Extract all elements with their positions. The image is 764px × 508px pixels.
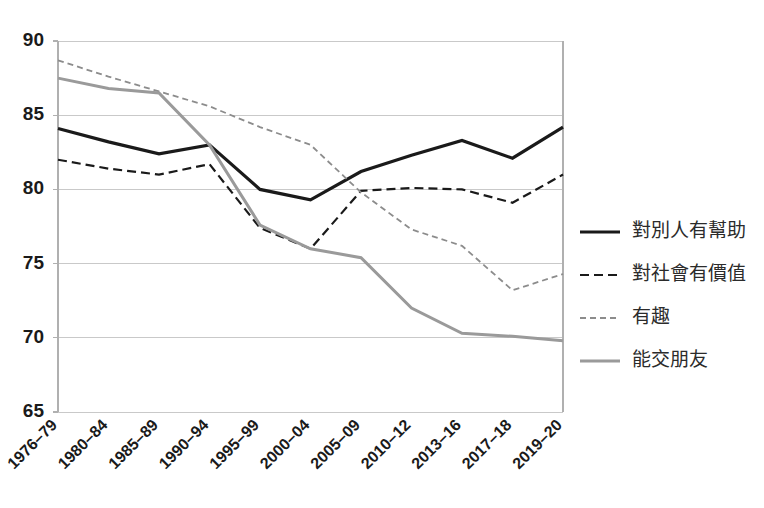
x-tick-label-2000-04: 2000–04 xyxy=(257,416,313,472)
x-tick-label-2017-18: 2017–18 xyxy=(459,416,515,472)
data-series xyxy=(58,60,563,340)
y-axis-tick-labels: 657075808590 xyxy=(23,29,45,421)
series-line-2 xyxy=(58,60,563,290)
x-tick-label-1985-89: 1985–89 xyxy=(105,416,161,472)
legend-label-3: 能交朋友 xyxy=(632,349,708,370)
legend-label-0: 對別人有幫助 xyxy=(632,220,746,241)
x-tick-label-1990-94: 1990–94 xyxy=(156,416,212,472)
line-chart: 657075808590 1976–791980–841985–891990–9… xyxy=(0,0,764,508)
x-tick-label-2013-16: 2013–16 xyxy=(408,416,464,472)
y-tick-label-80: 80 xyxy=(23,177,44,198)
x-tick-label-2019-20: 2019–20 xyxy=(509,416,565,472)
x-tick-label-2010-12: 2010–12 xyxy=(358,416,414,472)
axis-lines xyxy=(53,41,563,412)
chart-canvas: 657075808590 1976–791980–841985–891990–9… xyxy=(0,0,764,508)
y-tick-label-70: 70 xyxy=(23,326,44,347)
x-tick-label-1976-79: 1976–79 xyxy=(4,416,60,472)
x-axis-tick-labels: 1976–791980–841985–891990–941995–992000–… xyxy=(4,416,565,472)
series-line-1 xyxy=(58,160,563,249)
x-tick-label-2005-09: 2005–09 xyxy=(307,416,363,472)
x-tick-label-1980-84: 1980–84 xyxy=(55,416,111,472)
legend: 對別人有幫助對社會有價值有趣能交朋友 xyxy=(580,220,746,370)
legend-label-1: 對社會有價值 xyxy=(632,263,746,284)
legend-label-2: 有趣 xyxy=(632,306,670,327)
y-tick-label-65: 65 xyxy=(23,400,45,421)
y-tick-label-75: 75 xyxy=(23,252,45,273)
series-line-3 xyxy=(58,78,563,341)
x-tick-label-1995-99: 1995–99 xyxy=(206,416,262,472)
y-tick-label-90: 90 xyxy=(23,29,44,50)
gridlines xyxy=(58,41,563,412)
series-line-0 xyxy=(58,127,563,200)
y-tick-label-85: 85 xyxy=(23,103,45,124)
